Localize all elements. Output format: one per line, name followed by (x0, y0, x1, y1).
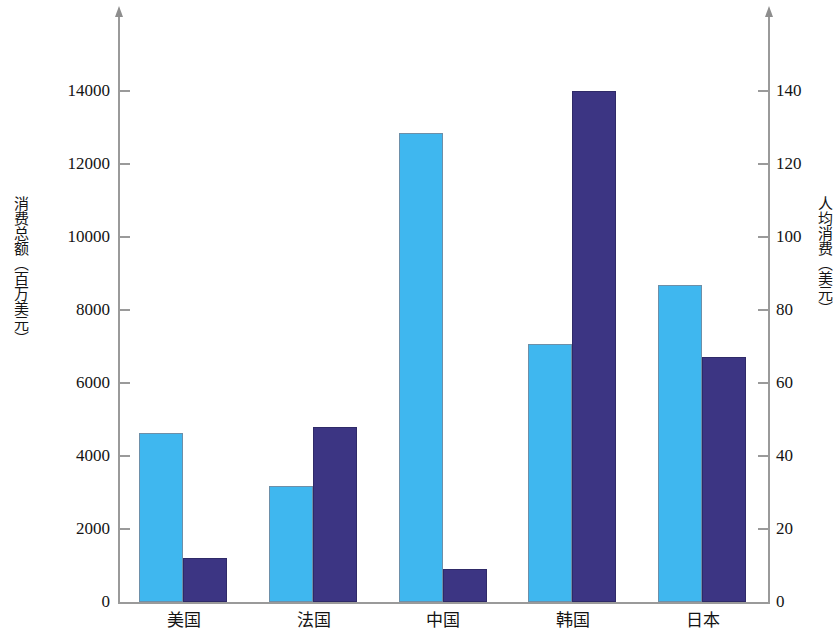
right-axis-tick-label: 0 (776, 593, 833, 610)
right-axis-tick-label-wrap: 60 (776, 374, 833, 391)
right-axis-tick-label: 80 (776, 301, 833, 318)
bar-per-capita-consumption (572, 91, 616, 602)
right-axis-tick-label-wrap: 20 (776, 520, 833, 537)
bar-total-consumption (269, 486, 313, 602)
bar-total-consumption (399, 133, 443, 602)
right-axis-tick-label-wrap: 40 (776, 447, 833, 464)
right-axis-tick-label-wrap: 120 (776, 155, 833, 172)
bar-total-consumption (528, 344, 572, 602)
right-axis-tick-label: 60 (776, 374, 833, 391)
x-axis-category-label: 美国 (119, 612, 249, 629)
right-axis-tick-label: 120 (776, 155, 833, 172)
right-axis-tick-label-wrap: 140 (776, 82, 833, 99)
right-axis-tick-label: 140 (776, 82, 833, 99)
x-axis-category-label: 韩国 (508, 612, 638, 629)
right-axis-tick-label-wrap: 0 (776, 593, 833, 610)
x-axis-category-label: 日本 (638, 612, 768, 629)
bar-per-capita-consumption (443, 569, 487, 602)
x-axis-category-label: 法国 (249, 612, 379, 629)
plot-area (118, 14, 768, 603)
x-axis-category-label: 中国 (379, 612, 509, 629)
right-axis-tick-label: 40 (776, 447, 833, 464)
right-axis-tick-label: 100 (776, 228, 833, 245)
bar-total-consumption (139, 433, 183, 602)
bar-total-consumption (658, 285, 702, 602)
bar-chart: 消费总额（百万美元） 人均消费（美元） 02000400060008000100… (0, 0, 833, 644)
bar-per-capita-consumption (313, 427, 357, 602)
right-axis-tick-label-wrap: 80 (776, 301, 833, 318)
right-axis-tick-label: 20 (776, 520, 833, 537)
bar-per-capita-consumption (183, 558, 227, 602)
bar-per-capita-consumption (702, 357, 746, 602)
right-axis-tick-label-wrap: 100 (776, 228, 833, 245)
